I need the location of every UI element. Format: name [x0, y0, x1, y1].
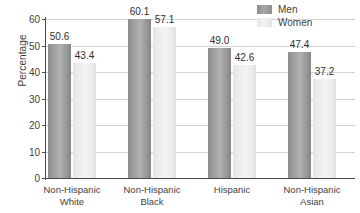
y-axis-tick-label: 20 — [29, 120, 40, 131]
bar-value-label: 49.0 — [210, 35, 229, 46]
y-axis-title: Percentage — [17, 1, 28, 121]
legend-label-women: Women — [278, 17, 312, 28]
bar-value-label: 60.1 — [130, 6, 149, 17]
bar-women-0 — [73, 63, 96, 178]
bar-women-3 — [313, 79, 336, 178]
x-axis-label-line: White — [43, 196, 100, 208]
x-axis-label-line: Hispanic — [214, 184, 250, 196]
bar-value-label: 43.4 — [75, 50, 94, 61]
bar-chart: Percentage 010203040506050.643.4Non-Hisp… — [0, 0, 360, 213]
y-axis-tick — [42, 125, 46, 126]
bar-value-label: 57.1 — [155, 14, 174, 25]
x-axis-category-label: Non-HispanicBlack — [123, 184, 180, 207]
y-axis-tick — [42, 99, 46, 100]
bar-value-label: 42.6 — [235, 52, 254, 63]
legend-item-men: Men — [257, 3, 312, 16]
x-axis-label-line: Non-Hispanic — [123, 184, 180, 196]
x-axis-label-line: Non-Hispanic — [43, 184, 100, 196]
bar-men-3 — [288, 52, 311, 178]
y-axis-tick — [42, 46, 46, 47]
bar-men-1 — [128, 19, 151, 178]
legend-label-men: Men — [278, 4, 297, 15]
y-axis-tick — [42, 72, 46, 73]
y-axis-tick-label: 10 — [29, 146, 40, 157]
y-axis-tick-label: 40 — [29, 67, 40, 78]
y-axis-tick-label: 30 — [29, 93, 40, 104]
bar-women-2 — [233, 65, 256, 178]
x-axis-line — [45, 178, 355, 179]
bar-men-0 — [48, 44, 71, 178]
bar-value-label: 47.4 — [290, 39, 309, 50]
chart-legend: Men Women — [257, 3, 312, 29]
y-axis-tick-label: 50 — [29, 40, 40, 51]
y-axis-tick-label: 0 — [34, 173, 40, 184]
bar-value-label: 50.6 — [50, 31, 69, 42]
women-swatch-icon — [257, 18, 272, 27]
bar-men-2 — [208, 48, 231, 178]
bar-women-1 — [153, 27, 176, 178]
bar-value-label: 37.2 — [315, 66, 334, 77]
x-axis-category-label: Non-HispanicAsian — [283, 184, 340, 207]
x-axis-label-line: Black — [123, 196, 180, 208]
y-axis-tick — [42, 152, 46, 153]
y-axis-tick-label: 60 — [29, 14, 40, 25]
plot-area: 010203040506050.643.4Non-HispanicWhite60… — [46, 19, 355, 178]
x-axis-category-label: Hispanic — [214, 184, 250, 196]
y-axis-tick — [42, 178, 46, 179]
y-axis-tick — [42, 19, 46, 20]
legend-item-women: Women — [257, 16, 312, 29]
men-swatch-icon — [257, 5, 272, 14]
x-axis-label-line: Asian — [283, 196, 340, 208]
x-axis-label-line: Non-Hispanic — [283, 184, 340, 196]
x-axis-category-label: Non-HispanicWhite — [43, 184, 100, 207]
